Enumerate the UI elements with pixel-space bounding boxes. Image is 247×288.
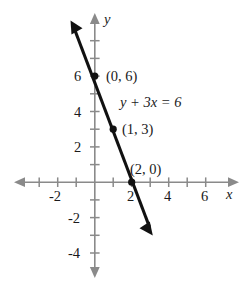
coordinate-graph: y x -2 2 4 6 6 4 2 -2 -4 (0, 6) (1, 3) (… bbox=[0, 0, 247, 288]
x-tick-label-4: 4 bbox=[164, 189, 171, 204]
y-axis-label: y bbox=[104, 12, 110, 27]
point-1-3 bbox=[110, 126, 117, 133]
point-label-0-6: (0, 6) bbox=[106, 69, 137, 84]
y-tick-label-neg2: -2 bbox=[68, 211, 80, 226]
point-0-6 bbox=[91, 73, 98, 80]
x-tick-label-6: 6 bbox=[201, 189, 208, 204]
x-axis-label: x bbox=[226, 187, 232, 202]
point-label-1-3: (1, 3) bbox=[122, 122, 153, 137]
y-tick-label-6: 6 bbox=[74, 69, 81, 84]
x-tick-label-2: 2 bbox=[127, 189, 134, 204]
graph-canvas bbox=[0, 0, 247, 288]
y-tick-label-4: 4 bbox=[74, 105, 81, 120]
y-axis bbox=[90, 13, 100, 278]
point-label-2-0: (2, 0) bbox=[130, 162, 161, 177]
y-tick-label-2: 2 bbox=[74, 140, 81, 155]
point-2-0 bbox=[128, 179, 135, 186]
equation-label: y + 3x = 6 bbox=[120, 95, 181, 110]
x-axis bbox=[14, 177, 239, 187]
x-tick-label-neg2: -2 bbox=[49, 189, 61, 204]
y-tick-label-neg4: -4 bbox=[68, 246, 80, 261]
